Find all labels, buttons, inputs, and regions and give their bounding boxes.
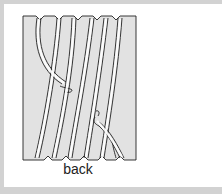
wrapped-cylinder-illustration	[0, 0, 222, 194]
figure-caption: back	[52, 161, 104, 177]
